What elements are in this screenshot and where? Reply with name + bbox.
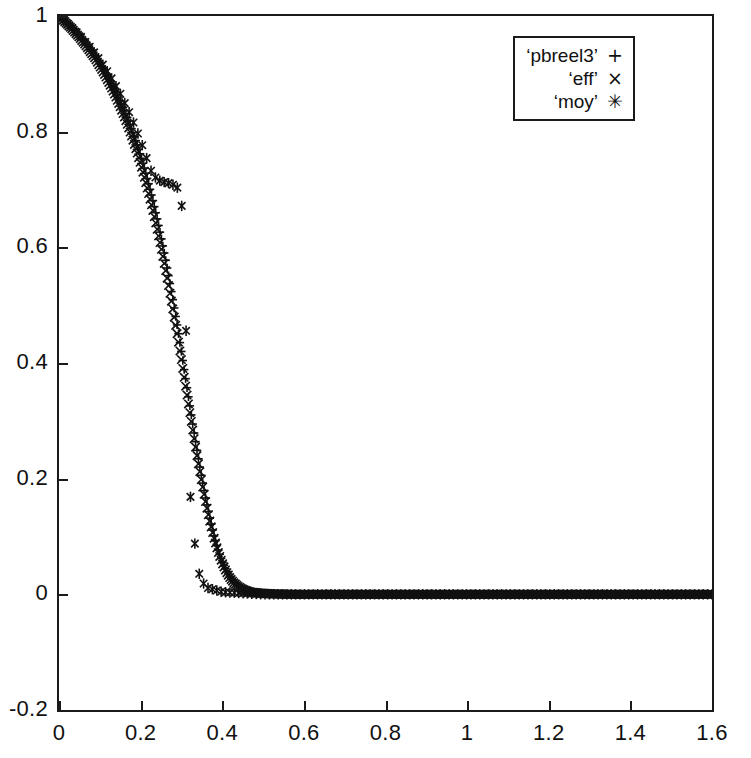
legend-entry-moy: ‘moy’ ✳ [522, 90, 626, 112]
legend-marker-cross-icon: × [604, 69, 626, 88]
chart-figure: 10.80.60.40.20-0.2 00.20.40.60.811.21.41… [0, 0, 751, 758]
x-tick-mark [222, 701, 224, 710]
y-tick-mark [59, 363, 68, 365]
y-tick-mark [59, 479, 68, 481]
x-tick-mark [549, 701, 551, 710]
y-tick-mark [59, 132, 68, 134]
legend-label-moy: ‘moy’ [554, 92, 598, 111]
legend-marker-plus-icon: + [604, 46, 626, 65]
x-tick-mark [59, 701, 61, 710]
legend-entry-eff: ‘eff’ × [522, 67, 626, 89]
x-tick-mark [141, 701, 143, 710]
x-tick-label: 1.2 [533, 722, 564, 744]
x-tick-label: 1 [461, 722, 474, 744]
y-tick-mark [59, 247, 68, 249]
x-tick-label: 0.6 [288, 722, 319, 744]
x-tick-label: 0.2 [125, 722, 156, 744]
x-tick-mark [467, 701, 469, 710]
x-tick-mark [304, 701, 306, 710]
y-tick-mark [59, 594, 68, 596]
x-tick-label: 0 [53, 722, 66, 744]
legend-box: ‘pbreel3’ + ‘eff’ × ‘moy’ ✳ [513, 36, 635, 121]
y-tick-mark [59, 710, 68, 712]
x-tick-label: 0.4 [207, 722, 238, 744]
x-tick-mark [712, 701, 714, 710]
x-tick-mark [630, 701, 632, 710]
x-tick-mark [386, 701, 388, 710]
legend-label-eff: ‘eff’ [568, 69, 598, 88]
legend-marker-asterisk-icon: ✳ [604, 92, 626, 111]
y-tick-mark [59, 16, 68, 18]
legend-entry-pbreel3: ‘pbreel3’ + [522, 44, 626, 66]
x-tick-label: 1.4 [615, 722, 646, 744]
legend-label-pbreel3: ‘pbreel3’ [526, 46, 598, 65]
x-tick-label: 1.6 [696, 722, 727, 744]
x-tick-label: 0.8 [370, 722, 401, 744]
